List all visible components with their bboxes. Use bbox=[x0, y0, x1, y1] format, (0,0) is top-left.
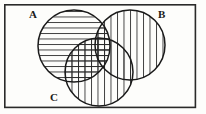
set-label-c: C bbox=[50, 92, 58, 103]
set-label-a: A bbox=[29, 9, 37, 20]
set-label-b: B bbox=[158, 9, 165, 20]
venn-diagram-figure: A B C bbox=[0, 0, 206, 114]
